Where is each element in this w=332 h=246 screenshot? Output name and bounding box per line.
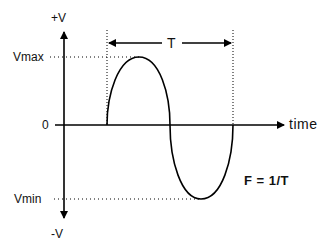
vmax-label: Vmax xyxy=(13,51,44,63)
vmin-label: Vmin xyxy=(14,193,41,205)
minus-v-label: -V xyxy=(51,228,63,240)
frequency-formula: F = 1/T xyxy=(244,174,289,187)
zero-label: 0 xyxy=(42,119,49,131)
sine-wave xyxy=(107,57,233,199)
time-label: time xyxy=(289,117,317,131)
period-label: T xyxy=(164,36,179,50)
plus-v-label: +V xyxy=(51,12,66,24)
